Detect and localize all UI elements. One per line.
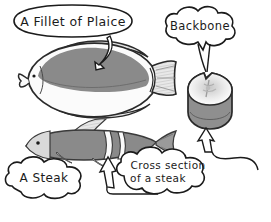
callout-cross-section-label-line2: of a steak: [130, 172, 186, 184]
callout-steak-label: A Steak: [20, 171, 69, 185]
round-fish-eye: [36, 141, 40, 145]
backbone-centre: [206, 86, 210, 90]
plaice-eye: [32, 74, 35, 77]
callout-fillet-label: A Fillet of Plaice: [20, 14, 126, 29]
steak-cylinder-illustration: [188, 73, 232, 129]
callout-fillet[interactable]: A Fillet of Plaice: [14, 5, 132, 37]
fish-cuts-diagram: A Fillet of Plaice Backbone A Steak: [0, 0, 271, 222]
diagram-canvas: A Fillet of Plaice Backbone A Steak: [0, 0, 271, 222]
callout-cross-section-label-line1: Cross section: [130, 159, 205, 171]
callout-backbone-label: Backbone: [170, 19, 230, 33]
steak-cylinder-top-face: [188, 73, 232, 105]
